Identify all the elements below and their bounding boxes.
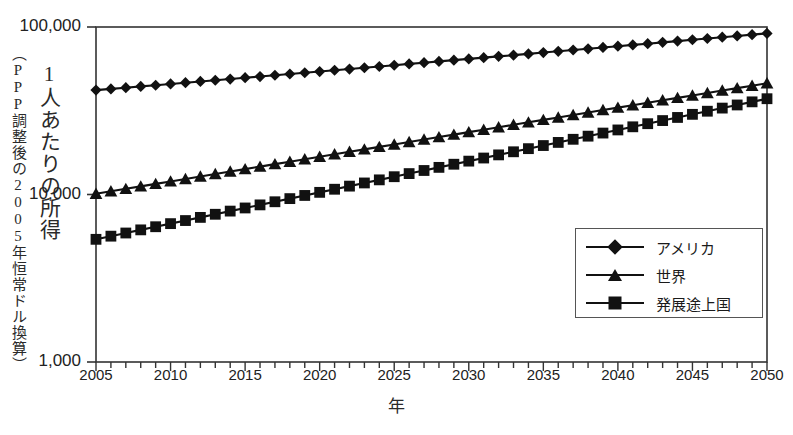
data-marker-square [493,149,504,160]
data-marker-diamond [568,44,579,55]
data-marker-diamond [329,65,340,76]
data-marker-square [523,143,534,154]
data-marker-diamond [150,80,161,91]
data-marker-diamond [254,71,265,82]
data-marker-diamond [374,61,385,72]
data-marker-square [389,171,400,182]
data-marker-square [642,118,653,129]
data-marker-square [419,165,430,176]
data-marker-square [135,224,146,235]
data-marker-square [463,156,474,167]
data-marker-diamond [314,66,325,77]
chart-legend: アメリカ 世界 発展途上国 [575,228,763,318]
data-marker-square [508,146,519,157]
data-marker-square [478,153,489,164]
data-marker-diamond [538,47,549,58]
data-marker-diamond [493,51,504,62]
data-marker-diamond [732,30,743,41]
x-tick-label: 2040 [588,366,648,383]
data-marker-square [598,128,609,139]
data-marker-square [687,109,698,120]
data-marker-square [717,103,728,114]
data-marker-diamond [165,78,176,89]
data-marker-square [284,193,295,204]
data-marker-diamond [702,33,713,44]
data-marker-square [344,181,355,192]
data-marker-square [329,184,340,195]
x-tick-label: 2015 [215,366,275,383]
x-tick-label: 2035 [513,366,573,383]
data-marker-diamond [448,55,459,66]
data-marker-diamond [284,68,295,79]
data-marker-square [553,137,564,148]
data-marker-square [747,96,758,107]
data-marker-diamond [761,28,772,39]
x-tick-label: 2025 [364,366,424,383]
data-marker-diamond [642,38,653,49]
y-tick-label: 10,000 [1,184,81,204]
data-marker-diamond [90,85,101,96]
data-marker-diamond [597,42,608,53]
data-marker-square [120,228,131,239]
x-tick-label: 2005 [66,366,126,383]
data-marker-diamond [210,75,221,86]
data-marker-diamond [478,52,489,63]
data-marker-diamond [553,46,564,57]
data-marker-square [568,134,579,145]
legend-marker-diamond-icon [584,237,646,257]
data-marker-diamond [418,57,429,68]
data-marker-square [165,218,176,229]
data-marker-square [180,215,191,226]
data-marker-diamond [433,56,444,67]
data-marker-diamond [240,72,251,83]
data-marker-diamond [523,48,534,59]
data-marker-square [434,162,445,173]
data-marker-diamond [627,39,638,50]
data-marker-square [314,187,325,198]
data-marker-square [150,221,161,232]
data-marker-diamond [344,63,355,74]
data-marker-square [195,212,206,223]
data-marker-square [672,112,683,123]
data-marker-square [225,206,236,217]
data-marker-square [657,115,668,126]
data-marker-diamond [687,34,698,45]
legend-item-0: アメリカ [584,233,756,261]
data-marker-square [240,203,251,214]
data-marker-square [732,100,743,111]
data-marker-diamond [120,82,131,93]
data-marker-square [91,234,102,245]
data-marker-diamond [508,50,519,61]
legend-label-2: 発展途上国 [656,293,731,314]
data-marker-diamond [404,58,415,69]
legend-item-2: 発展途上国 [584,289,756,317]
data-marker-square [210,209,221,220]
data-marker-diamond [359,62,370,73]
data-marker-diamond [582,43,593,54]
data-marker-square [762,93,773,104]
legend-label-0: アメリカ [656,237,715,258]
data-marker-square [448,159,459,170]
legend-marker-triangle-icon [584,265,646,285]
data-marker-square [374,174,385,185]
data-marker-square [538,140,549,151]
data-marker-square [583,131,594,142]
legend-label-1: 世界 [656,265,686,286]
legend-item-1: 世界 [584,261,756,289]
data-marker-square [255,199,266,210]
data-marker-diamond [135,81,146,92]
data-marker-square [299,190,310,201]
data-marker-diamond [180,77,191,88]
data-marker-diamond [746,29,757,40]
data-marker-square [404,168,415,179]
chart-figure: 1人あたりの所得 （PPP調整後の2005年恒常ドル換算） 年 100,0001… [0,0,793,435]
data-marker-diamond [299,67,310,78]
x-tick-label: 2045 [662,366,722,383]
data-marker-diamond [612,41,623,52]
legend-marker-square-icon [584,293,646,313]
data-marker-diamond [657,37,668,48]
data-marker-square [270,196,281,207]
x-tick-label: 2030 [439,366,499,383]
data-marker-diamond [269,70,280,81]
data-marker-diamond [105,83,116,94]
